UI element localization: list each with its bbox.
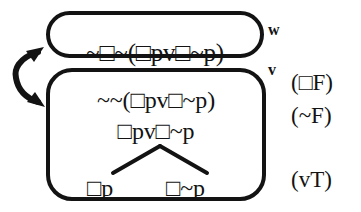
- branch-leaf-right: □~p: [166, 176, 205, 200]
- formula-v-1: □pv□~p: [50, 119, 262, 143]
- arrowhead-lower: [27, 92, 45, 107]
- world-label-v: v: [268, 62, 276, 78]
- world-label-w: w: [268, 22, 280, 38]
- branch-line-right: [160, 146, 207, 173]
- world-w-contents: ~□~(□pv□~p): [50, 15, 260, 54]
- rule-annotation-negation-false: (~F): [291, 104, 332, 127]
- branch-line-left: [113, 146, 160, 173]
- rule-annotation-disjunction-true: (vT): [291, 168, 332, 191]
- world-box-w: ~□~(□pv□~p): [46, 11, 264, 58]
- branch-leaf-left: □p: [87, 176, 113, 200]
- world-box-v: ~~(□pv□~p) □pv□~p □p □~p: [46, 68, 266, 201]
- world-v-contents: ~~(□pv□~p) □pv□~p □p □~p: [50, 72, 262, 197]
- modal-tableau-figure: ~□~(□pv□~p) w ~~(□pv□~p) □pv□~p □p □~p v…: [0, 0, 361, 212]
- rule-annotation-box-false: (□F): [291, 71, 333, 94]
- formula-w-0: ~□~(□pv□~p): [50, 40, 260, 65]
- formula-v-0: ~~(□pv□~p): [50, 88, 262, 112]
- arrowhead-upper: [26, 47, 44, 62]
